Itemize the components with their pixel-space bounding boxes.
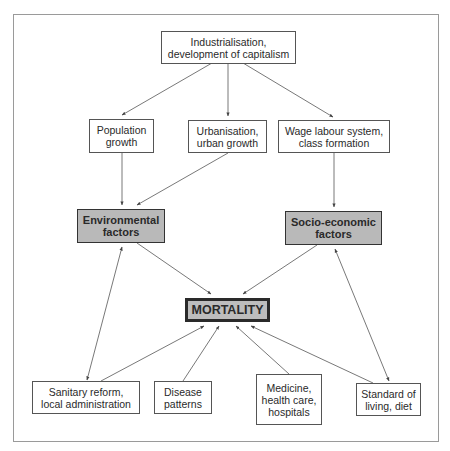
node-label: MORTALITY	[192, 304, 264, 316]
node-label: Population growth	[97, 124, 147, 148]
node-label: Socio-economic factors	[291, 216, 376, 240]
node-urbanisation: Urbanisation, urban growth	[188, 120, 267, 153]
node-mortality: MORTALITY	[185, 298, 270, 322]
node-environmental-factors: Environmental factors	[77, 209, 165, 243]
node-socioeconomic-factors: Socio-economic factors	[285, 211, 382, 245]
node-label: Sanitary reform, local administration	[41, 386, 131, 410]
node-medicine: Medicine, health care, hospitals	[256, 374, 322, 425]
node-wage-labour: Wage labour system, class formation	[278, 120, 390, 153]
node-label: Environmental factors	[83, 214, 159, 238]
node-label: Standard of living, diet	[361, 388, 415, 412]
node-label: Wage labour system, class formation	[285, 125, 383, 149]
node-standard-of-living: Standard of living, diet	[356, 383, 421, 416]
node-disease-patterns: Disease patterns	[154, 381, 212, 414]
node-label: Medicine, health care, hospitals	[262, 382, 317, 418]
node-label: Urbanisation, urban growth	[197, 125, 259, 149]
node-sanitary-reform: Sanitary reform, local administration	[32, 381, 140, 414]
node-label: Industrialisation, development of capita…	[168, 36, 289, 60]
node-label: Disease patterns	[164, 386, 202, 410]
node-population-growth: Population growth	[89, 119, 154, 153]
node-industrialisation: Industrialisation, development of capita…	[161, 31, 296, 64]
